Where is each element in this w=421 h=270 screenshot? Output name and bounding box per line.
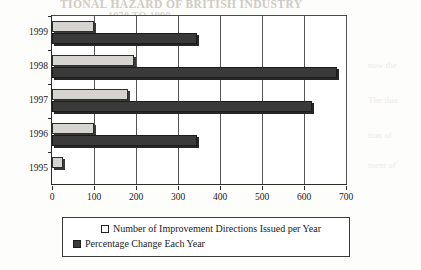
bleed-row: ment of bbox=[368, 160, 396, 170]
bar bbox=[52, 135, 197, 146]
bar bbox=[52, 123, 94, 134]
chart-legend: Number of Improvement Directions Issued … bbox=[62, 217, 350, 257]
gridline bbox=[346, 16, 347, 184]
x-axis-tick bbox=[52, 186, 53, 190]
bleed-heading-line-1: TIONAL HAZARD OF BRITISH INDUSTRY bbox=[60, 0, 302, 10]
x-axis-tick-label: 300 bbox=[158, 192, 198, 202]
y-axis-tick-label: 1998 bbox=[8, 61, 48, 71]
x-axis-tick bbox=[220, 186, 221, 190]
bar bbox=[52, 101, 312, 112]
x-axis-tick-label: 700 bbox=[326, 192, 366, 202]
y-axis-tick bbox=[48, 84, 52, 85]
y-axis-tick bbox=[48, 118, 52, 119]
y-axis-tick bbox=[48, 50, 52, 51]
x-axis-tick bbox=[346, 186, 347, 190]
y-axis-tick-label: 1997 bbox=[8, 95, 48, 105]
x-axis-tick-label: 100 bbox=[74, 192, 114, 202]
bleed-row: now the bbox=[368, 60, 397, 70]
light-swatch-icon bbox=[101, 225, 109, 233]
bar bbox=[52, 21, 94, 32]
bar bbox=[52, 157, 63, 168]
legend-label-1: Percentage Change Each Year bbox=[85, 236, 205, 251]
x-axis-tick bbox=[304, 186, 305, 190]
legend-label-0: Number of Improvement Directions Issued … bbox=[113, 221, 321, 236]
y-axis-tick-label: 1995 bbox=[8, 163, 48, 173]
bar bbox=[52, 67, 337, 78]
bar bbox=[52, 33, 197, 44]
legend-item-1: Percentage Change Each Year bbox=[63, 236, 349, 251]
x-axis-tick-label: 200 bbox=[116, 192, 156, 202]
bleed-row: tion of bbox=[368, 130, 392, 140]
x-axis-tick-label: 500 bbox=[242, 192, 282, 202]
bar-chart-plot-area: 0100200300400500600700 19991998199719961… bbox=[51, 15, 347, 185]
y-axis-tick bbox=[48, 152, 52, 153]
x-axis-tick bbox=[262, 186, 263, 190]
y-axis-tick-label: 1996 bbox=[8, 129, 48, 139]
dark-swatch-icon bbox=[73, 240, 81, 248]
x-axis-tick bbox=[94, 186, 95, 190]
bar bbox=[52, 55, 134, 66]
y-axis-tick-label: 1999 bbox=[8, 27, 48, 37]
bleed-row: The this bbox=[368, 95, 397, 105]
x-axis-tick bbox=[178, 186, 179, 190]
x-axis-tick-label: 600 bbox=[284, 192, 324, 202]
y-axis-tick bbox=[48, 16, 52, 17]
x-axis-tick bbox=[136, 186, 137, 190]
x-axis-tick-label: 400 bbox=[200, 192, 240, 202]
legend-item-0: Number of Improvement Directions Issued … bbox=[63, 221, 349, 236]
x-axis-tick-label: 0 bbox=[32, 192, 72, 202]
bar bbox=[52, 89, 128, 100]
